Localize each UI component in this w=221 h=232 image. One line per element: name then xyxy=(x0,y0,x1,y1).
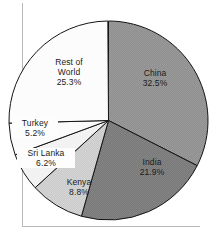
slice-label-kenya: Kenya 8.8% xyxy=(57,177,101,197)
slice-value-china: 32.5% xyxy=(131,78,179,88)
slice-value-turkey: 5.2% xyxy=(14,128,56,138)
slice-label-sri-lanka: Sri Lanka 6.2% xyxy=(17,148,75,168)
slice-label-india: India 21.9% xyxy=(128,157,176,177)
slice-label-sri-lanka-name: Sri Lanka xyxy=(19,148,73,158)
pie-chart xyxy=(0,0,221,232)
slice-value-rest-of-world: 25.3% xyxy=(36,77,102,87)
slice-label-rest-of-world: Rest of World 25.3% xyxy=(36,57,102,87)
slice-label-turkey-name: Turkey xyxy=(14,118,56,128)
slice-label-rest-of-world-line2: World xyxy=(36,67,102,77)
slice-label-china-name: China xyxy=(131,68,179,78)
slice-label-rest-of-world-line1: Rest of xyxy=(36,57,102,67)
slice-label-india-name: India xyxy=(128,157,176,167)
slice-value-india: 21.9% xyxy=(128,167,176,177)
slice-label-kenya-name: Kenya xyxy=(57,177,101,187)
slice-label-turkey: Turkey 5.2% xyxy=(12,118,58,138)
slice-value-sri-lanka: 6.2% xyxy=(19,158,73,168)
slice-value-kenya: 8.8% xyxy=(57,187,101,197)
slice-label-china: China 32.5% xyxy=(131,68,179,88)
chart-canvas: Rest of World 25.3% China 32.5% India 21… xyxy=(0,0,221,232)
